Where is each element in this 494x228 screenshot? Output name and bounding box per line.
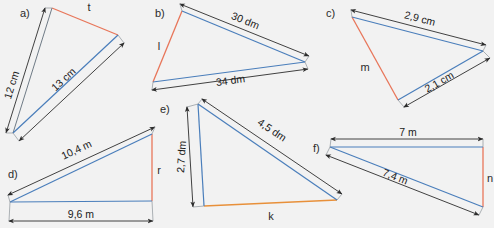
ext-e1 — [187, 104, 198, 107]
dimension-label-b-34dm: 34 dm — [215, 72, 246, 88]
dimension-label-d-96m: 9,6 m — [68, 208, 95, 220]
dimension-line-b-30dm — [180, 4, 309, 56]
dimension-label-a-13cm: 13 cm — [49, 65, 78, 93]
triangle-a-side-t — [52, 8, 118, 35]
side-label-a-t: t — [87, 1, 90, 13]
panel-d: 10,4 m 9,6 m d) r — [8, 127, 161, 221]
panel-letter-f: f) — [313, 142, 320, 154]
ext-a4 — [13, 133, 19, 141]
worksheet-page: 12 cm 13 cm a) t 30 dm 34 dm b) — [0, 0, 494, 228]
dimension-line-e-27dm — [187, 107, 193, 207]
dimension-label-f-7m: 7 m — [399, 126, 417, 138]
dimension-label-e-27dm: 2,7 dm — [174, 140, 188, 173]
ext-f1 — [330, 139, 331, 147]
ext-b2 — [305, 56, 309, 62]
triangle-e-side-k — [204, 200, 337, 206]
ext-d3 — [9, 202, 10, 221]
side-label-d-r: r — [157, 164, 161, 176]
dimension-label-f-74m: 7,4 m — [381, 166, 410, 187]
side-label-b-l: l — [158, 40, 160, 52]
dimension-label-c-21cm: 2,1 cm — [422, 68, 456, 94]
ext-a3 — [118, 35, 124, 43]
triangles-canvas: 12 cm 13 cm a) t 30 dm 34 dm b) — [0, 0, 494, 228]
ext-e4 — [337, 194, 342, 200]
ext-b4 — [305, 62, 308, 69]
side-label-e-k: k — [268, 210, 274, 222]
side-label-c-m: m — [360, 61, 369, 73]
triangle-d-side-96m — [10, 201, 152, 202]
dimension-label-b-30dm: 30 dm — [230, 9, 262, 31]
panel-letter-e: e) — [160, 103, 170, 115]
panel-letter-b: b) — [155, 7, 165, 19]
triangle-c-side-m — [352, 17, 398, 100]
dimension-line-a-13cm — [19, 43, 124, 141]
ext-d4 — [152, 201, 153, 221]
panel-c: 2,9 cm 2,1 cm c) m — [326, 7, 490, 107]
ext-b3 — [152, 82, 153, 90]
ext-c3 — [398, 100, 404, 107]
ext-f3 — [326, 147, 330, 155]
panel-f: 7 m 7,4 m f) n — [313, 126, 493, 215]
triangle-e-side-27dm — [198, 104, 204, 206]
dimension-label-a-12cm: 12 cm — [1, 69, 21, 100]
ext-f4 — [479, 207, 483, 215]
ext-e3 — [198, 99, 202, 104]
panel-b: 30 dm 34 dm b) l — [152, 4, 309, 90]
ext-c2 — [483, 45, 486, 51]
dimension-line-d-104m — [8, 127, 155, 195]
dimension-label-e-45dm: 4,5 dm — [256, 116, 290, 144]
ext-e2 — [193, 206, 204, 207]
panel-letter-d: d) — [8, 168, 18, 180]
panel-letter-c: c) — [326, 7, 335, 19]
ext-c1 — [351, 10, 352, 17]
ext-c4 — [483, 51, 490, 58]
ext-d1 — [8, 195, 10, 202]
panel-a: 12 cm 13 cm a) t — [1, 1, 124, 141]
dimension-line-e-45dm — [202, 99, 342, 194]
side-label-f-n: n — [487, 172, 493, 184]
panel-e: 2,7 dm 4,5 dm e) k — [160, 99, 342, 222]
panel-letter-a: a) — [20, 7, 30, 19]
